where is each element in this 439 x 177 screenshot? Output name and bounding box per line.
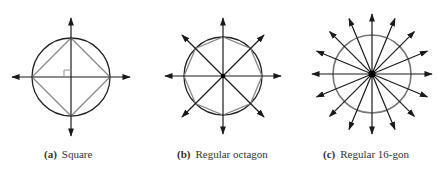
panel-16gon (312, 14, 432, 134)
panel-square (12, 18, 130, 136)
caption-square: (a)Square (44, 148, 92, 160)
angle-arc (228, 71, 230, 76)
center-point (221, 74, 225, 78)
caption-text: Square (62, 148, 93, 160)
right-angle-marker (64, 70, 71, 77)
caption-tag: (c) (323, 148, 335, 160)
caption-tag: (a) (44, 148, 57, 160)
caption-16gon: (c)Regular 16-gon (323, 148, 409, 160)
panel-octagon (165, 18, 281, 134)
center-point (369, 71, 376, 78)
caption-tag: (b) (177, 148, 190, 160)
caption-text: Regular octagon (195, 148, 267, 160)
caption-octagon: (b)Regular octagon (177, 148, 268, 160)
caption-text: Regular 16-gon (340, 148, 409, 160)
